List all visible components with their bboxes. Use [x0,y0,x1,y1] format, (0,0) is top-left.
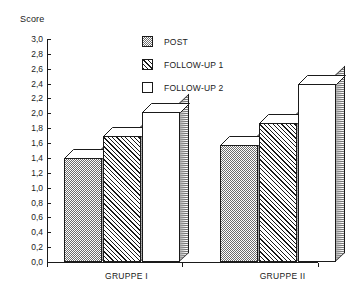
legend-label-follow-up-2: FOLLOW-UP 2 [164,83,224,93]
legend-item-follow-up-2: FOLLOW-UP 2 [142,82,224,93]
y-axis-tick-label: 2,0 [17,109,43,117]
y-axis-tick-label-wrap: 0,8 [14,199,43,207]
y-axis-tick [47,232,51,233]
y-axis-tick [47,54,51,55]
y-axis-tick-label: 1,2 [17,169,43,177]
y-axis-tick [47,113,51,114]
y-axis-tick-label-wrap: 0,2 [14,243,43,251]
x-axis-category-label: GRUPPE I [77,271,177,281]
y-axis-tick-label-wrap: 2,0 [14,109,43,117]
y-axis-tick [47,128,51,129]
y-axis-tick [47,84,51,85]
y-axis-tick-label-wrap: 1,2 [14,169,43,177]
y-axis-tick [47,173,51,174]
y-axis-tick [47,98,51,99]
bar-front-face [103,136,141,262]
y-axis-tick [47,143,51,144]
bar-front-face [298,84,336,262]
bar-side-face [335,65,345,262]
legend-item-follow-up-1: FOLLOW-UP 1 [142,59,224,70]
y-axis-title: Score [20,14,45,24]
y-axis-tick [47,39,51,40]
legend: POST FOLLOW-UP 1 FOLLOW-UP 2 [142,36,224,105]
y-axis-tick-label: 2,6 [17,65,43,73]
y-axis-tick [47,247,51,248]
y-axis-tick-label-wrap: 1,6 [14,139,43,147]
y-axis-tick-label-wrap: 0,4 [14,228,43,236]
x-axis-category-label: GRUPPE II [233,271,333,281]
legend-swatch-follow-up-1 [142,59,153,70]
y-axis-tick-label: 1,8 [17,124,43,132]
y-axis-tick-label: 2,4 [17,80,43,88]
y-axis-tick-label: 0,0 [17,258,43,266]
y-axis-tick-label: 1,4 [17,154,43,162]
legend-swatch-follow-up-2 [142,82,153,93]
y-axis-tick-label: 2,2 [17,94,43,102]
y-axis-tick-label-wrap: 1,4 [14,154,43,162]
x-axis-tick [318,263,319,267]
y-axis-tick-label: 1,0 [17,184,43,192]
y-axis-tick-label-wrap: 3,0 [14,35,43,43]
bar [142,103,189,262]
bar-side-face [179,94,189,262]
legend-swatch-post [142,36,153,47]
y-axis-tick-label: 0,6 [17,213,43,221]
y-axis-tick [47,158,51,159]
bar-front-face [64,158,102,262]
legend-item-post: POST [142,36,224,47]
y-axis-tick-label-wrap: 2,6 [14,65,43,73]
bar-front-face [259,123,297,262]
y-axis-tick-label-wrap: 2,4 [14,80,43,88]
y-axis-tick-label: 0,4 [17,228,43,236]
y-axis-line [47,39,48,263]
legend-label-post: POST [164,37,188,47]
y-axis-tick-label: 2,8 [17,50,43,58]
y-axis-tick-label: 0,8 [17,199,43,207]
x-axis-tick [182,263,183,267]
y-axis-tick [47,217,51,218]
y-axis-tick [47,203,51,204]
bar-front-face [142,112,180,262]
y-axis-tick-label: 0,2 [17,243,43,251]
y-axis-tick-label: 1,6 [17,139,43,147]
legend-label-follow-up-1: FOLLOW-UP 1 [164,60,224,70]
bar-front-face [220,145,258,262]
y-axis-tick-label-wrap: 0,6 [14,213,43,221]
y-axis-tick [47,69,51,70]
y-axis-tick-label-wrap: 2,2 [14,94,43,102]
y-axis-tick-label-wrap: 2,8 [14,50,43,58]
y-axis-tick [47,188,51,189]
bar [298,75,345,262]
y-axis-tick-label-wrap: 1,8 [14,124,43,132]
y-axis-tick-label: 3,0 [17,35,43,43]
x-axis-tick [47,263,48,267]
y-axis-tick-label-wrap: 0,0 [14,258,43,266]
y-axis-tick-label-wrap: 1,0 [14,184,43,192]
